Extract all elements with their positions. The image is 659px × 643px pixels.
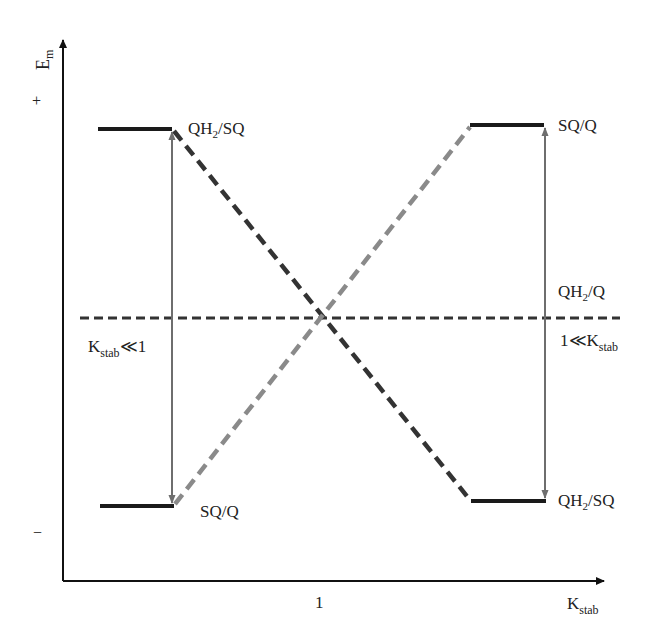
midpoint-label: QH2/Q (558, 282, 605, 303)
left-bottom-level-label: SQ/Q (200, 502, 239, 521)
redox-potential-diagram: Em + − 1 Kstab QH2/SQ SQ/Q Kstab≪1 SQ/Q … (0, 0, 659, 643)
right-top-level-label: SQ/Q (558, 116, 597, 135)
right-bottom-level-label: QH2/SQ (558, 491, 615, 512)
y-axis-plus-sign: + (32, 92, 41, 109)
left-regime-label: Kstab≪1 (88, 337, 146, 360)
y-axis-label: Em (33, 49, 56, 70)
right-regime-label: 1≪Kstab (560, 331, 618, 354)
left-top-level-label: QH2/SQ (188, 119, 245, 140)
x-axis-tick-one: 1 (315, 593, 324, 612)
x-axis-label: Kstab (567, 594, 599, 617)
y-axis-minus-sign: − (33, 524, 42, 541)
